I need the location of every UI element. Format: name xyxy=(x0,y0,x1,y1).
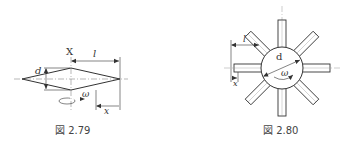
diameter-label: d xyxy=(35,65,41,76)
figure-2-79: X l d ω x 図 2.79 xyxy=(14,46,128,136)
figure-caption: 図 2.79 xyxy=(55,125,90,136)
omega-label: ω xyxy=(82,89,90,99)
figure-caption: 図 2.80 xyxy=(263,125,298,136)
length-label: l xyxy=(243,34,246,44)
distance-label: x xyxy=(233,79,238,88)
rotation-arrow-icon xyxy=(59,98,75,104)
axis-label-x: X xyxy=(66,46,74,57)
diameter-label: d xyxy=(276,51,283,62)
diagram-canvas: X l d ω x 図 2.79 xyxy=(0,0,344,149)
distance-label: x xyxy=(104,106,109,116)
figure-2-80: d ω l x 図 2.80 xyxy=(224,6,340,136)
omega-label: ω xyxy=(281,68,289,78)
length-label: l xyxy=(93,48,96,59)
